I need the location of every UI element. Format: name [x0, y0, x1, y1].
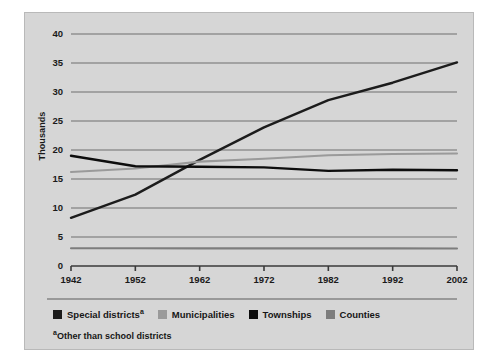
legend-item-townships[interactable]: Townships — [249, 309, 312, 320]
y-tick-label: 10 — [37, 202, 63, 213]
legend-item-special-districts[interactable]: Special districtsa — [53, 308, 144, 320]
y-tick-label: 30 — [37, 86, 63, 97]
chart-footnote: aOther than school districts — [53, 329, 171, 341]
x-tick-label: 1982 — [308, 274, 348, 285]
series-line-special-districts — [71, 62, 457, 217]
chart-figure: Thousands 4035302520151050 1942195219621… — [24, 12, 474, 350]
x-tick-label: 1942 — [51, 274, 91, 285]
legend-label: Townships — [263, 309, 312, 320]
legend-swatch-icon — [53, 310, 62, 319]
y-tick-label: 35 — [37, 57, 63, 68]
line-chart-svg — [25, 13, 475, 351]
x-tick-label: 1972 — [244, 274, 284, 285]
y-tick-label: 20 — [37, 144, 63, 155]
y-tick-label: 0 — [37, 260, 63, 271]
y-tick-label: 40 — [37, 28, 63, 39]
legend-swatch-icon — [249, 310, 258, 319]
legend-swatch-icon — [326, 310, 335, 319]
x-tick-marks — [71, 266, 457, 271]
y-axis-title: Thousands — [37, 86, 47, 186]
gridlines — [71, 34, 457, 266]
y-tick-label: 15 — [37, 173, 63, 184]
plot-area: Thousands 4035302520151050 1942195219621… — [25, 13, 475, 351]
x-tick-label: 1992 — [373, 274, 413, 285]
x-tick-label: 2002 — [437, 274, 477, 285]
series-lines — [71, 62, 457, 248]
chart-legend: Special districtsaMunicipalitiesTownship… — [53, 305, 453, 323]
legend-footnote-marker: a — [140, 308, 144, 315]
y-tick-label: 25 — [37, 115, 63, 126]
x-tick-label: 1962 — [180, 274, 220, 285]
legend-label: Counties — [340, 309, 381, 320]
y-tick-label: 5 — [37, 231, 63, 242]
legend-swatch-icon — [158, 310, 167, 319]
x-tick-label: 1952 — [115, 274, 155, 285]
footnote-text: Other than school districts — [57, 331, 172, 341]
legend-label: Special districtsa — [67, 308, 144, 320]
legend-item-municipalities[interactable]: Municipalities — [158, 309, 235, 320]
legend-item-counties[interactable]: Counties — [326, 309, 381, 320]
legend-label: Municipalities — [172, 309, 235, 320]
